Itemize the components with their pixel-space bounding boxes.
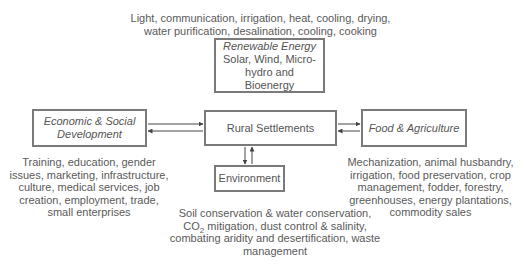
food-item-line-1: Mechanization, animal husbandry, [340, 156, 521, 169]
env-line-2-rest: mitigation, dust control & salinity, [204, 220, 366, 232]
env-item-line-2: CO2 mitigation, dust control & salinity, [140, 220, 410, 233]
env-item-line-1: Soil conservation & water conservation, [140, 207, 410, 220]
econ-item-line-3: culture, medical services, job [0, 181, 178, 194]
food-item-line-4: greenhouses, energy plantations, [340, 194, 521, 207]
food-item-line-3: management, fodder, forestry, [340, 181, 521, 194]
econ-item-line-2: issues, marketing, infrastructure, [0, 169, 178, 182]
environment-items-text: Soil conservation & water conservation, … [140, 207, 410, 257]
co2-label: CO [183, 220, 200, 232]
econ-item-line-4: creation, employment, trade, [0, 194, 178, 207]
env-item-line-3: combating aridity and desertification, w… [140, 232, 410, 245]
food-item-line-2: irrigation, food preservation, crop [340, 169, 521, 182]
econ-item-line-1: Training, education, gender [0, 156, 178, 169]
env-item-line-4: management [140, 245, 410, 258]
